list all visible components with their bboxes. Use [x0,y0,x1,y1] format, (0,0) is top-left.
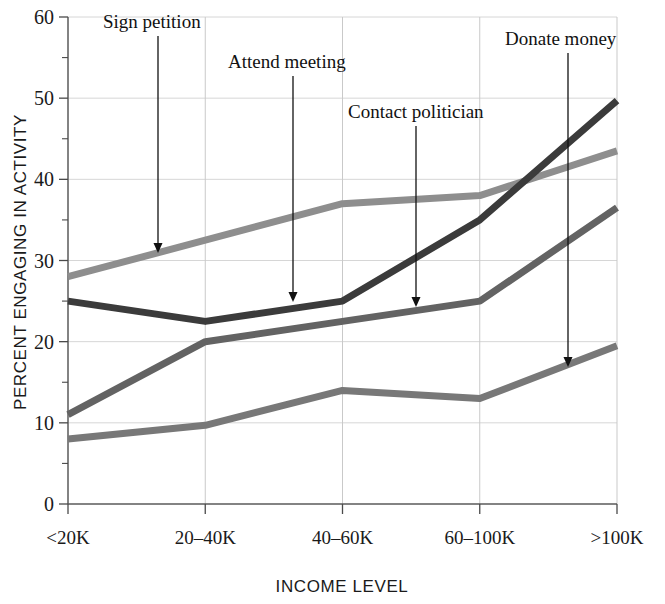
y-axis-ticks [59,17,68,504]
annotation-label-donate-money: Donate money [505,28,617,49]
annotation-label-sign-petition: Sign petition [103,11,201,32]
series-annotations: Sign petitionAttend meetingContact polit… [103,11,617,367]
x-category-label: >100K [591,527,644,548]
annotation-arrowhead-contact-politician [412,297,421,307]
x-axis-ticks [68,504,617,514]
chart-canvas: 0102030405060 <20K20–40K40–60K60–100K>10… [0,0,665,604]
y-tick-label: 10 [34,412,54,434]
x-axis-category-labels: <20K20–40K40–60K60–100K>100K [46,527,643,548]
y-axis-title: PERCENT ENGAGING IN ACTIVITY [11,114,30,410]
x-category-label: <20K [46,527,90,548]
y-tick-label: 60 [34,6,54,28]
annotation-arrowhead-attend-meeting [289,292,298,302]
y-axis-tick-labels: 0102030405060 [34,6,54,515]
y-tick-label: 40 [34,168,54,190]
income-participation-line-chart: 0102030405060 <20K20–40K40–60K60–100K>10… [0,0,665,604]
y-tick-label: 0 [44,493,54,515]
y-tick-label: 50 [34,87,54,109]
annotation-label-attend-meeting: Attend meeting [228,51,346,72]
x-axis-title: INCOME LEVEL [276,577,409,596]
x-category-label: 60–100K [444,527,515,548]
annotation-label-contact-politician: Contact politician [348,101,484,122]
x-category-label: 20–40K [175,527,237,548]
x-category-label: 40–60K [312,527,374,548]
y-tick-label: 30 [34,250,54,272]
y-tick-label: 20 [34,331,54,353]
